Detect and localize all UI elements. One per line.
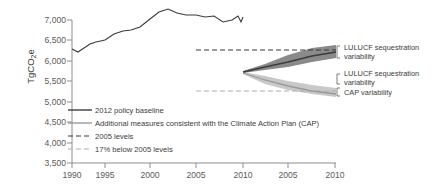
y-axis-ticks — [67, 20, 72, 163]
plot-area — [67, 9, 340, 168]
annotation-bracket-cap-variability — [337, 88, 340, 96]
chart-figure: TgCO2e 7,000 6,500 6,000 5,500 5,000 4,5… — [0, 0, 435, 189]
chart-canvas — [0, 0, 435, 189]
x-axis-ticks — [72, 163, 335, 168]
band-cap-variability — [243, 72, 336, 97]
series-historical-emissions — [72, 9, 243, 52]
annotation-bracket-lulucf-baseline — [337, 46, 340, 58]
annotation-bracket-lulucf-cap — [337, 74, 340, 84]
